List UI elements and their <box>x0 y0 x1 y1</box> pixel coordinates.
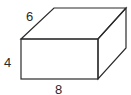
height-label: 4 <box>4 55 11 70</box>
prism-edges <box>21 8 126 79</box>
front-face <box>21 39 98 79</box>
rectangular-prism-diagram: 6 4 8 <box>0 0 131 95</box>
width-label: 8 <box>55 82 62 95</box>
right-face <box>98 8 126 79</box>
top-face <box>21 8 126 39</box>
depth-label: 6 <box>26 9 33 24</box>
